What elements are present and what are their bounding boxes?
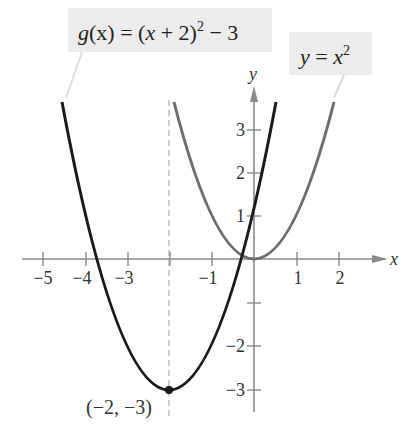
svg-text:−1: −1: [198, 268, 217, 288]
y-axis: [247, 86, 261, 412]
f-label-leader: [334, 75, 344, 98]
vertex-label: (−2, −3): [86, 396, 152, 419]
g-label: g(x) = (x + 2)2 − 3: [78, 19, 238, 45]
svg-text:−5: −5: [33, 268, 52, 288]
x-axis-arrow-icon: [372, 255, 388, 263]
y-axis-label: y: [247, 64, 257, 84]
x-tick-labels: −5 −4 −3 −1 1 2: [33, 268, 344, 288]
f-label: y = x2: [298, 43, 350, 69]
graph-canvas: g(x) = (x + 2)2 − 3 y = x2 y x −5 −4 −3 …: [0, 0, 414, 438]
g-label-leader: [66, 52, 82, 98]
svg-text:2: 2: [336, 268, 345, 288]
y-axis-arrow-icon: [250, 86, 258, 102]
x-axis-label: x: [389, 249, 398, 269]
svg-text:2: 2: [236, 163, 245, 183]
svg-text:−3: −3: [114, 268, 133, 288]
x-axis: [22, 252, 388, 266]
svg-text:3: 3: [236, 120, 245, 140]
vertex-point: [165, 386, 173, 394]
svg-text:−2: −2: [226, 336, 245, 356]
svg-text:−3: −3: [226, 380, 245, 400]
svg-text:1: 1: [236, 206, 245, 226]
svg-text:−4: −4: [72, 268, 91, 288]
svg-text:1: 1: [294, 268, 303, 288]
